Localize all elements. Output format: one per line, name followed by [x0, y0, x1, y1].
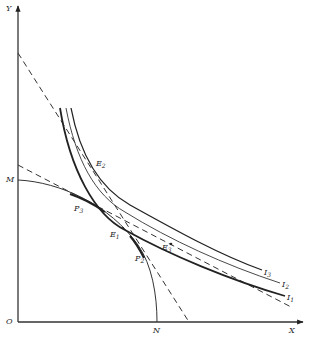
label-e1: E1 — [109, 230, 120, 240]
label-i1: I1 — [286, 293, 294, 303]
point-e1 — [122, 227, 124, 229]
price-line-steep — [18, 53, 189, 322]
indifference-curve-i1 — [60, 108, 285, 296]
label-i2: I2 — [281, 280, 289, 290]
label-m: M — [5, 175, 15, 184]
label-e2: E2 — [95, 159, 106, 169]
point-e3 — [170, 243, 173, 246]
diagram-canvas: Y X O I3 I2 I1 M N P3 P2 E1 E2 E3 — [0, 0, 312, 340]
indifference-curve-i2 — [66, 108, 280, 283]
y-axis-label: Y — [6, 4, 12, 13]
origin-label: O — [6, 317, 13, 326]
label-i3: I3 — [263, 268, 271, 278]
label-p3: P3 — [73, 204, 83, 214]
x-axis-label: X — [288, 326, 295, 335]
label-n: N — [152, 326, 161, 335]
price-line-shallow — [18, 165, 293, 308]
